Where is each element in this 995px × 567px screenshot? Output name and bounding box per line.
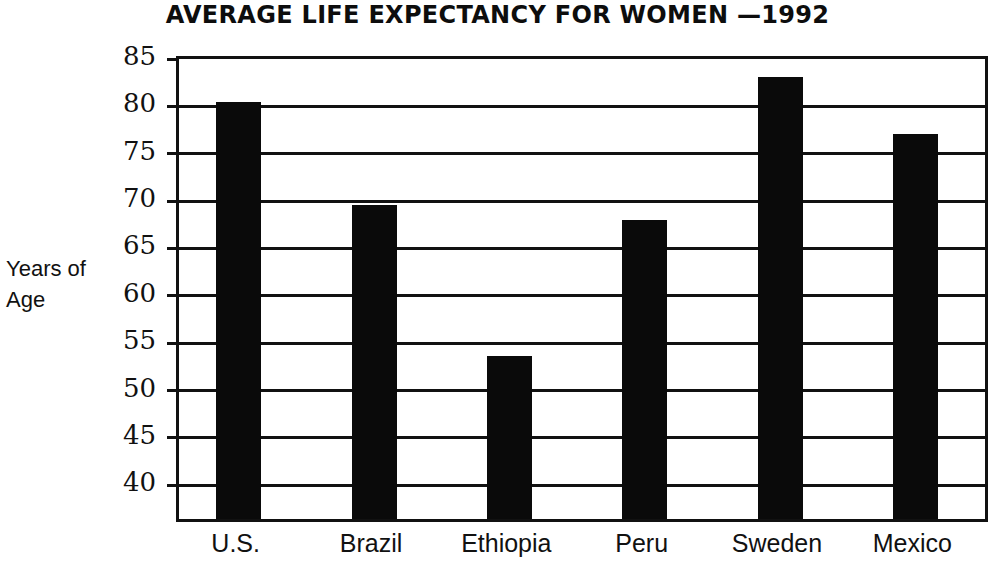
y-axis-tick bbox=[167, 342, 179, 345]
y-axis-tick bbox=[167, 436, 179, 439]
gridline bbox=[179, 247, 985, 250]
y-axis-tick-label: 70 bbox=[98, 185, 156, 211]
y-axis-tick bbox=[167, 484, 179, 487]
bar bbox=[758, 77, 803, 519]
plot-area bbox=[176, 56, 988, 522]
y-axis-tick-label: 85 bbox=[98, 43, 156, 69]
bar bbox=[352, 205, 397, 519]
gridline bbox=[179, 105, 985, 108]
gridline bbox=[179, 389, 985, 392]
x-axis-tick-label: Mexico bbox=[832, 528, 992, 558]
y-axis-tick-label: 45 bbox=[98, 422, 156, 448]
y-axis-tick-label: 40 bbox=[98, 469, 156, 495]
y-axis-tick bbox=[167, 247, 179, 250]
y-axis-tick bbox=[167, 152, 179, 155]
y-axis-tick-label: 75 bbox=[98, 138, 156, 164]
bar bbox=[893, 134, 938, 519]
y-axis-tick-label: 80 bbox=[98, 90, 156, 116]
y-axis-tick-label: 60 bbox=[98, 280, 156, 306]
gridline bbox=[179, 342, 985, 345]
bar bbox=[487, 356, 532, 519]
y-axis-tick-label: 65 bbox=[98, 232, 156, 258]
y-axis-tick-label: 50 bbox=[98, 375, 156, 401]
gridline bbox=[179, 152, 985, 155]
y-axis-tick bbox=[167, 294, 179, 297]
chart-title: AVERAGE LIFE EXPECTANCY FOR WOMEN —1992 bbox=[0, 0, 995, 30]
bar bbox=[622, 220, 667, 519]
y-axis-tick bbox=[167, 389, 179, 392]
bar-chart-figure: AVERAGE LIFE EXPECTANCY FOR WOMEN —1992 … bbox=[0, 0, 995, 567]
y-axis-tick bbox=[167, 200, 179, 203]
bar bbox=[216, 102, 261, 519]
gridline bbox=[179, 200, 985, 203]
y-axis-tick-label: 55 bbox=[98, 327, 156, 353]
gridline bbox=[179, 294, 985, 297]
gridline bbox=[179, 484, 985, 487]
y-axis-tick bbox=[167, 58, 179, 61]
y-axis-tick bbox=[167, 105, 179, 108]
gridline bbox=[179, 436, 985, 439]
